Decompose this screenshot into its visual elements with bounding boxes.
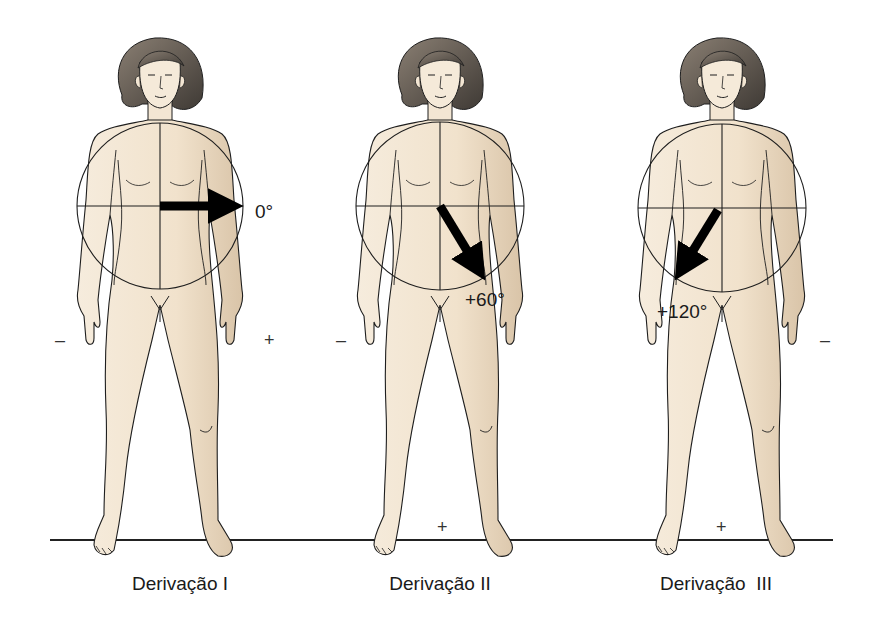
figure-lead-1: 0° – + Derivação I (55, 38, 275, 594)
woman-figure-icon (77, 38, 242, 556)
angle-label: +120° (657, 301, 707, 322)
woman-figure-icon (639, 38, 804, 556)
positive-electrode-sign: + (264, 330, 275, 350)
positive-electrode-sign: + (437, 517, 448, 537)
negative-electrode-sign: – (55, 330, 65, 350)
negative-electrode-sign: – (336, 330, 346, 350)
lead-caption: Derivação II (389, 573, 490, 594)
angle-label: 0° (255, 201, 273, 222)
negative-electrode-sign: – (820, 330, 830, 350)
lead-caption: Derivação I (132, 573, 228, 594)
lead-caption: Derivação III (660, 573, 772, 594)
figure-lead-2: +60° – + Derivação II (336, 38, 524, 594)
angle-label: +60° (465, 289, 505, 310)
ecg-limb-leads-diagram: 0° – + Derivação I +60° – + Derivação II… (0, 0, 878, 623)
positive-electrode-sign: + (716, 517, 727, 537)
figure-lead-3: +120° – + Derivação III (638, 38, 830, 594)
